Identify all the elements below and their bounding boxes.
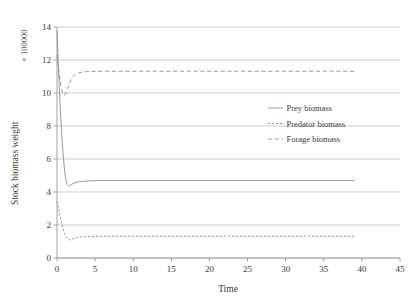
x-tick-label: 35 — [319, 264, 329, 274]
legend-label-forage-biomass: Forage biomass — [287, 134, 341, 144]
x-tick-label: 5 — [93, 264, 98, 274]
series-line-predator-biomass — [57, 202, 354, 240]
series-line-forage-biomass — [57, 55, 354, 95]
x-tick-label: 30 — [281, 264, 291, 274]
y-tick-label: 6 — [47, 154, 52, 164]
y-tick-label: 2 — [47, 220, 52, 230]
y-tick-label: 0 — [47, 253, 52, 263]
x-axis-ticks: 051015202530354045 — [55, 258, 405, 274]
x-tick-label: 15 — [167, 264, 177, 274]
y-tick-label: 12 — [42, 55, 51, 65]
x-tick-label: 40 — [357, 264, 367, 274]
x-axis-title: Time — [218, 284, 238, 294]
x-tick-label: 45 — [396, 264, 406, 274]
x-tick-label: 20 — [205, 264, 215, 274]
y-axis-multiplier-label: × 100000 — [19, 30, 29, 62]
gridlines — [57, 27, 400, 258]
y-axis-title: Stock biomass weight — [10, 121, 20, 205]
x-tick-label: 0 — [55, 264, 60, 274]
legend-label-prey-biomass: Prey biomass — [287, 103, 333, 113]
x-tick-label: 10 — [129, 264, 139, 274]
y-tick-label: 8 — [47, 121, 52, 131]
y-tick-label: 14 — [42, 22, 52, 32]
line-chart: 051015202530354045 02468101214 × 100000 … — [0, 0, 411, 302]
y-axis-ticks: 02468101214 — [42, 22, 57, 263]
legend-label-predator-biomass: Predator biomass — [287, 119, 346, 129]
chart-figure: 051015202530354045 02468101214 × 100000 … — [0, 0, 411, 302]
y-tick-label: 10 — [42, 88, 52, 98]
chart-legend: Prey biomassPredator biomassForage bioma… — [268, 103, 345, 144]
y-tick-label: 4 — [47, 187, 52, 197]
x-tick-label: 25 — [243, 264, 253, 274]
